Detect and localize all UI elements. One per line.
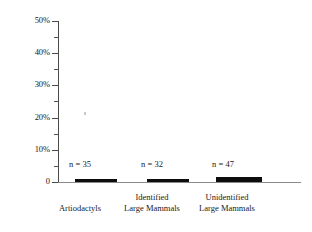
plot-area <box>58 21 301 182</box>
x-axis-line <box>58 182 301 183</box>
y-tick-label-40: 40% <box>18 48 50 57</box>
x-category-label-artiodactyls: Artiodactyls <box>48 203 112 214</box>
bar-annotation-artiodactyls: n = 35 <box>53 159 107 169</box>
y-tick-label-30: 30% <box>18 80 50 89</box>
scan-speck <box>84 112 86 115</box>
x-category-label-unidentified-large-mammals: Unidentified Large Mammals <box>189 192 265 213</box>
x-category-label-unidentified-large-mammals-line2: Large Mammals <box>189 203 265 214</box>
x-category-label-unidentified-large-mammals-line1: Unidentified <box>189 192 265 203</box>
bar-chart: 50% 40% 30% 20% 10% 0 n = 35 n = 32 n = … <box>0 0 312 232</box>
y-tick-label-0: 0 <box>18 177 50 186</box>
bar-annotation-identified-large-mammals: n = 32 <box>125 159 179 169</box>
y-tick-label-10: 10% <box>18 145 50 154</box>
x-category-label-artiodactyls-line1: Artiodactyls <box>48 203 112 214</box>
x-category-label-identified-large-mammals-line1: Identified <box>116 192 188 203</box>
bar-annotation-unidentified-large-mammals: n = 47 <box>196 159 250 169</box>
y-tick-label-20: 20% <box>18 113 50 122</box>
x-category-label-identified-large-mammals: Identified Large Mammals <box>116 192 188 213</box>
y-tick-label-50: 50% <box>18 16 50 25</box>
x-category-label-identified-large-mammals-line2: Large Mammals <box>116 203 188 214</box>
